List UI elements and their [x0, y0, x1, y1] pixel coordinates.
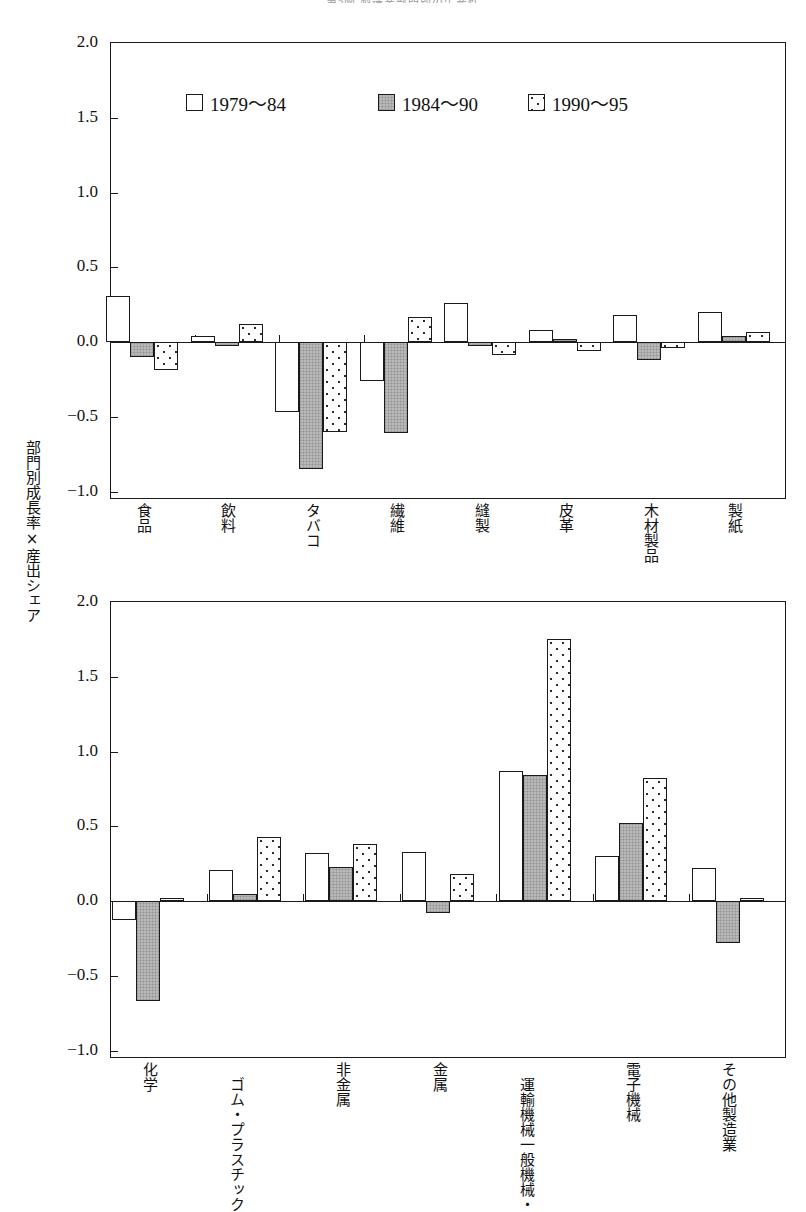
- lower-xtick-label: 化学: [140, 1062, 157, 1092]
- lower-bar: [305, 853, 329, 901]
- lower-xtick-mark: [593, 894, 594, 901]
- lower-ytick-mark: [110, 826, 118, 827]
- lower-bar: [619, 823, 643, 901]
- lower-plot-area: [110, 601, 786, 1058]
- lower-xtick-label: 電子機械: [623, 1062, 640, 1122]
- lower-ytick-mark: [110, 976, 118, 977]
- lower-ytick-mark: [110, 677, 118, 678]
- lower-bar: [136, 901, 160, 1001]
- lower-bar: [595, 856, 619, 901]
- lower-xtick-mark: [303, 894, 304, 901]
- lower-ytick-label: −0.5: [46, 965, 98, 985]
- lower-ytick-label: 1.5: [46, 666, 98, 686]
- lower-ytick-label: 2.0: [46, 591, 98, 611]
- lower-ytick-mark: [110, 752, 118, 753]
- lower-bar: [716, 901, 740, 943]
- lower-ytick-label: −1.0: [46, 1040, 98, 1060]
- lower-xtick-label: 一般機械・運輸機械: [518, 1062, 535, 1212]
- lower-bar: [450, 874, 474, 901]
- lower-bar: [233, 894, 257, 901]
- lower-xtick-mark: [496, 894, 497, 901]
- lower-xtick-label: 金属: [430, 1062, 447, 1092]
- lower-bar: [547, 639, 571, 901]
- lower-bar: [499, 771, 523, 901]
- lower-xtick-mark: [400, 894, 401, 901]
- lower-bar: [329, 867, 353, 901]
- lower-xtick-label: 非金属: [333, 1062, 350, 1107]
- lower-bar: [353, 844, 377, 901]
- lower-bar: [426, 901, 450, 913]
- lower-ytick-mark: [110, 1051, 118, 1052]
- lower-bar: [257, 837, 281, 901]
- lower-bar: [402, 852, 426, 901]
- lower-bar: [112, 901, 136, 920]
- lower-xtick-mark: [689, 894, 690, 901]
- lower-ytick-label: 0.0: [46, 890, 98, 910]
- lower-xtick-label: その他製造業: [720, 1062, 737, 1152]
- lower-bar: [643, 778, 667, 901]
- lower-bar: [523, 775, 547, 901]
- lower-zero-line: [110, 901, 786, 902]
- lower-ytick-label: 0.5: [46, 815, 98, 835]
- lower-xtick-mark: [207, 894, 208, 901]
- lower-ytick-label: 1.0: [46, 741, 98, 761]
- lower-bar: [209, 870, 233, 901]
- lower-xtick-label: プラスチックゴム・: [228, 1062, 245, 1212]
- lower-bar: [692, 868, 716, 901]
